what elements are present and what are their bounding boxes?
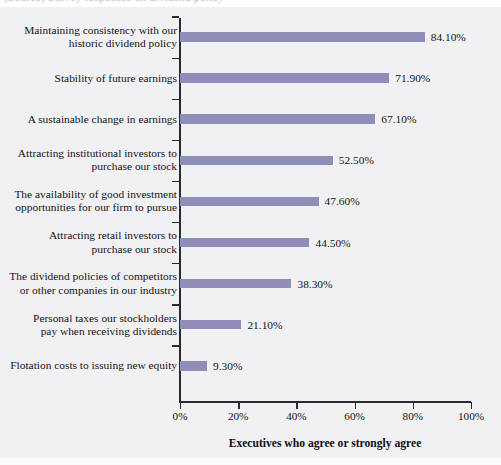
y-axis-tick	[172, 263, 179, 264]
y-axis-tick	[172, 222, 179, 223]
x-axis-tick-label: 80%	[403, 410, 424, 422]
bar-value-label: 47.60%	[325, 195, 360, 207]
category-label: Attracting institutional investors to pu…	[18, 147, 177, 173]
x-axis-tick	[296, 402, 297, 409]
bar-value-label: 52.50%	[339, 154, 374, 166]
figure-bottom-edge	[0, 458, 501, 465]
bar	[180, 197, 319, 207]
y-axis-tick	[172, 181, 179, 182]
bar-value-label: 38.30%	[297, 278, 332, 290]
bar	[180, 238, 309, 248]
y-axis-tick	[172, 140, 179, 141]
category-label: The dividend policies of competitors or …	[9, 270, 177, 296]
bar	[180, 320, 241, 330]
category-label: A sustainable change in earnings	[28, 113, 177, 126]
x-axis-line	[179, 401, 471, 403]
category-label: Attracting retail investors to purchase …	[49, 229, 177, 255]
category-label: Personal taxes our stockholders pay when…	[33, 312, 177, 338]
bar	[180, 73, 389, 83]
x-axis-tick-label: 40%	[286, 410, 307, 422]
clipped-caption-strip: (Source) Survey responses on dividend po…	[0, 0, 501, 7]
bar	[180, 156, 333, 166]
bar-value-label: 44.50%	[315, 237, 350, 249]
x-axis-tick-label: 20%	[228, 410, 249, 422]
bar-value-label: 84.10%	[431, 31, 466, 43]
x-axis-tick-label: 60%	[344, 410, 365, 422]
bar	[180, 361, 207, 371]
category-label: Maintaining consistency with our histori…	[24, 24, 177, 50]
bar-value-label: 67.10%	[381, 113, 416, 125]
category-label: Flotation costs to issuing new equity	[10, 359, 177, 372]
category-label: The availability of good investment oppo…	[14, 188, 177, 214]
category-label: Stability of future earnings	[55, 72, 177, 85]
x-axis-title: Executives who agree or strongly agree	[179, 437, 471, 450]
y-axis-tick	[172, 58, 179, 59]
bar-value-label: 71.90%	[395, 72, 430, 84]
chart-figure: (Source) Survey responses on dividend po…	[0, 0, 501, 465]
bar-value-label: 9.30%	[213, 360, 242, 372]
x-axis-tick	[471, 402, 472, 409]
x-axis-tick	[355, 402, 356, 409]
bar	[180, 32, 425, 42]
bar	[180, 279, 291, 289]
y-axis-tick	[172, 304, 179, 305]
y-axis-tick	[172, 99, 179, 100]
y-axis-tick	[172, 16, 179, 17]
clipped-caption-text: (Source) Survey responses on dividend po…	[4, 0, 224, 3]
bar	[180, 114, 375, 124]
x-axis-tick-label: 100%	[458, 410, 484, 422]
x-axis-tick	[180, 402, 181, 409]
x-axis-tick	[238, 402, 239, 409]
x-axis-tick	[413, 402, 414, 409]
bar-value-label: 21.10%	[247, 319, 282, 331]
y-axis-tick	[172, 345, 179, 346]
x-axis-tick-label: 0%	[173, 410, 188, 422]
